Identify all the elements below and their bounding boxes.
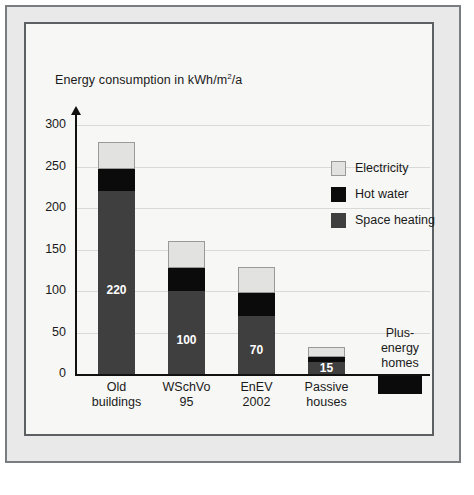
figure: Energy consumption in kWh/m2/a 050100150… <box>0 0 474 495</box>
figure-caption <box>6 484 468 495</box>
chart-panel <box>24 22 434 436</box>
